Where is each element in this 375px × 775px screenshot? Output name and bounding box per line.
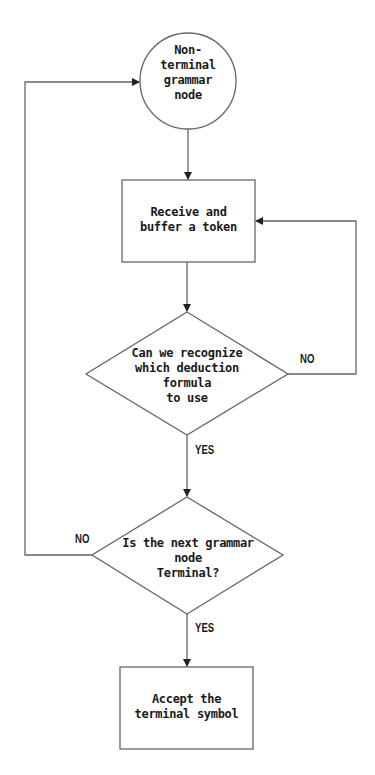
decision2-node-text: Is the next grammar node Terminal?	[100, 536, 276, 581]
edge-decision2-no-loop	[25, 82, 139, 555]
start-node-text: Non- terminal grammar node	[140, 43, 236, 103]
decision1-no-label: NO	[300, 352, 314, 366]
decision1-yes-label: YES	[195, 443, 214, 457]
decision1-node-text: Can we recognize which deduction formula…	[96, 346, 278, 406]
flowchart-canvas: Non- terminal grammar node Receive and b…	[0, 0, 375, 775]
decision2-yes-label: YES	[195, 621, 214, 635]
decision2-no-label: NO	[75, 532, 89, 546]
receive-node-text: Receive and buffer a token	[122, 205, 255, 235]
accept-node-text: Accept the terminal symbol	[120, 692, 253, 722]
